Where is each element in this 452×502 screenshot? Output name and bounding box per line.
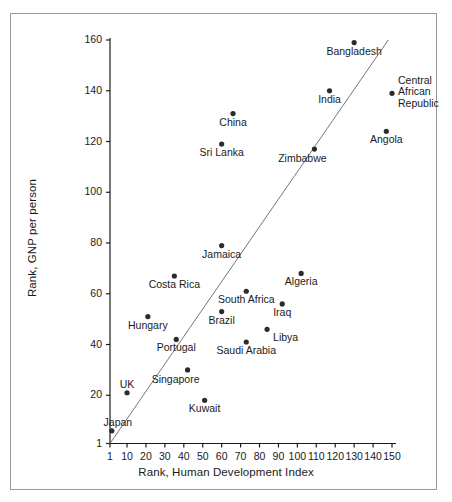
data-point-label: Singapore bbox=[126, 374, 226, 386]
data-point-label: South Africa bbox=[196, 294, 296, 306]
data-point-label: Libya bbox=[273, 332, 298, 344]
data-point-label: Central African Republic bbox=[398, 75, 439, 110]
data-point-label: Saudi Arabia bbox=[196, 345, 296, 357]
data-point-label: Jamaica bbox=[172, 249, 272, 261]
y-tick-label: 1 bbox=[68, 437, 102, 449]
data-point-label: Algeria bbox=[251, 276, 351, 288]
y-axis-title: Rank, GNP per person bbox=[26, 148, 38, 328]
x-tick-label: 150 bbox=[378, 450, 406, 462]
data-point bbox=[124, 390, 129, 395]
x-axis-title: Rank, Human Development Index bbox=[0, 466, 452, 478]
data-point-label: China bbox=[183, 117, 283, 129]
data-point bbox=[264, 327, 269, 332]
data-point-label: Zimbabwe bbox=[252, 153, 352, 165]
data-point-label: Japan bbox=[68, 417, 168, 429]
y-tick-label: 160 bbox=[68, 33, 102, 45]
data-point-label: India bbox=[280, 94, 380, 106]
y-tick-label: 140 bbox=[68, 84, 102, 96]
data-point bbox=[185, 367, 190, 372]
y-tick-label: 40 bbox=[68, 338, 102, 350]
y-tick-label: 60 bbox=[68, 287, 102, 299]
scatter-plot-figure: 1102030405060708090100110120130140150 12… bbox=[0, 0, 452, 502]
data-point-label: Bangladesh bbox=[304, 46, 404, 58]
data-point-label: Kuwait bbox=[155, 403, 255, 415]
data-point bbox=[109, 428, 114, 433]
data-point-label: Iraq bbox=[232, 307, 332, 319]
y-tick-label: 100 bbox=[68, 185, 102, 197]
y-tick-label: 80 bbox=[68, 236, 102, 248]
y-tick-label: 120 bbox=[68, 135, 102, 147]
data-point-label: Costa Rica bbox=[124, 279, 224, 291]
data-point bbox=[389, 91, 394, 96]
data-point-label: Angola bbox=[336, 134, 436, 146]
data-point bbox=[312, 147, 317, 152]
